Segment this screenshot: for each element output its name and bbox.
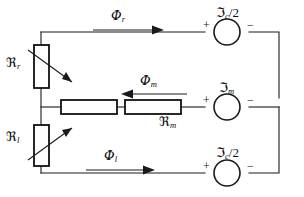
- source-label-middle: ℑm: [219, 81, 234, 95]
- mmf-source-middle: [214, 94, 240, 120]
- polarity-plus-bottom: +: [203, 160, 210, 172]
- flux-arrow-top-icon: [93, 26, 164, 35]
- reluctance-label-lower: ℜl: [6, 130, 19, 144]
- reluctance-label-middle: ℜm: [159, 115, 176, 129]
- reluctance-label-upper: ℜr: [6, 56, 20, 70]
- source-label-top: ℑc/2: [216, 6, 239, 20]
- polarity-plus-top: +: [203, 19, 210, 31]
- polarity-minus-top: −: [247, 19, 254, 31]
- polarity-plus-middle: +: [203, 94, 210, 106]
- circuit-schematic: [0, 0, 304, 197]
- upper-reluctance-box: [34, 45, 49, 88]
- polarity-minus-middle: −: [247, 94, 254, 106]
- polarity-minus-bottom: −: [247, 160, 254, 172]
- flux-label-bottom: Φl: [104, 149, 117, 163]
- middle-reluctance-box-left: [61, 100, 117, 114]
- source-label-bottom: ℑc/2: [216, 146, 239, 160]
- flux-arrow-middle-icon: [121, 90, 187, 99]
- flux-label-top: Φr: [111, 9, 125, 23]
- mmf-source-top: [214, 19, 240, 45]
- top-branch-wire-right: [249, 32, 279, 98]
- diagram-canvas: Φr Φm Φl ℜr ℜl ℜm ℑc/2 ℑm ℑc/2 + − + − +…: [0, 0, 304, 197]
- middle-reluctance-box-right: [125, 100, 181, 114]
- lower-reluctance-box: [34, 125, 49, 166]
- mmf-source-bottom: [214, 160, 240, 186]
- flux-label-middle: Φm: [140, 74, 157, 88]
